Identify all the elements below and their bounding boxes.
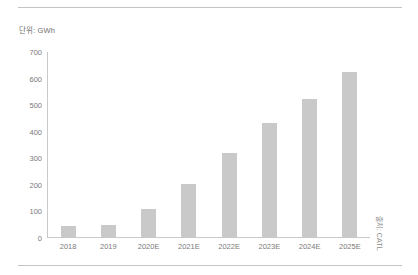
y-axis-tick-label: 0 [38, 234, 42, 243]
bar [141, 209, 156, 237]
bar-series: 201820192020E2021E2022E2023E2024E2025E [48, 52, 370, 237]
bar-slot: 2018 [48, 52, 88, 237]
y-axis-tick-label: 300 [29, 154, 42, 163]
bar [262, 123, 277, 237]
source-note: 출처: CATL [375, 216, 385, 251]
bar-slot: 2024E [290, 52, 330, 237]
bar [302, 99, 317, 237]
x-axis-tick-label: 2019 [100, 242, 117, 251]
y-axis-tick-label: 500 [29, 101, 42, 110]
top-divider-rule [18, 7, 402, 8]
y-axis-tick-label: 400 [29, 127, 42, 136]
x-axis-tick-label: 2018 [60, 242, 77, 251]
bar-slot: 2025E [330, 52, 370, 237]
y-axis-tick-label: 700 [29, 48, 42, 57]
x-axis-tick-label: 2020E [138, 242, 160, 251]
y-axis-tick-label: 100 [29, 207, 42, 216]
plot-area: 0100200300400500600700 201820192020E2021… [47, 52, 370, 238]
bar [222, 153, 237, 237]
bar-chart-figure: 단위: GWh 0100200300400500600700 201820192… [0, 0, 418, 275]
x-axis-tick-label: 2022E [218, 242, 240, 251]
bar [181, 184, 196, 237]
bar [101, 225, 116, 237]
x-axis-tick-label: 2024E [299, 242, 321, 251]
y-axis-tick-label: 600 [29, 74, 42, 83]
bar-slot: 2021E [169, 52, 209, 237]
x-axis-tick-label: 2023E [259, 242, 281, 251]
bar-slot: 2023E [249, 52, 289, 237]
x-axis-line [47, 237, 370, 238]
x-axis-tick-label: 2021E [178, 242, 200, 251]
bar-slot: 2020E [129, 52, 169, 237]
bar [61, 226, 76, 237]
bar-slot: 2019 [88, 52, 128, 237]
y-axis-tick-label: 200 [29, 180, 42, 189]
x-axis-tick-label: 2025E [339, 242, 361, 251]
bar [342, 72, 357, 237]
unit-caption: 단위: GWh [19, 24, 55, 35]
bar-slot: 2022E [209, 52, 249, 237]
bottom-divider-rule [18, 265, 402, 266]
